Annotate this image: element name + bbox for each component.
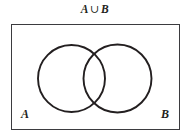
set-a-label: A bbox=[21, 108, 29, 120]
set-a-circle bbox=[38, 45, 105, 112]
set-b-label: B bbox=[161, 108, 169, 120]
set-b-circle bbox=[84, 45, 152, 113]
venn-diagram-figure: A∪B A B bbox=[0, 0, 190, 139]
